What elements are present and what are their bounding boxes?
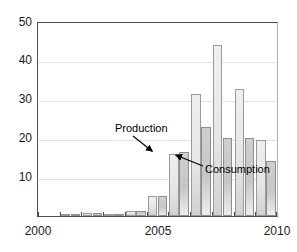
x-tick-2003 [103, 212, 104, 216]
bar-consumption-2003 [114, 214, 124, 216]
x-tick-2002 [81, 212, 82, 216]
x-tick-2005 [147, 212, 148, 216]
bar-consumption-2001 [71, 214, 81, 216]
bar-production-2002 [83, 213, 93, 216]
annotation-label-production: Production [115, 122, 168, 134]
bar-chart: 50 40 30 20 10 2000 2005 2010 Production… [0, 0, 297, 252]
x-axis-tick-label-2005: 2005 [136, 224, 180, 238]
x-tick-2004 [125, 212, 126, 216]
bar-production-2003 [104, 214, 114, 216]
y-axis-tick-label-10: 10 [6, 170, 32, 184]
y-axis-tick-label-20: 20 [6, 131, 32, 145]
x-axis-tick-label-2010: 2010 [255, 224, 297, 238]
annotation-label-consumption: Consumption [205, 163, 270, 175]
y-axis-tick-label-40: 40 [6, 53, 32, 67]
bar-consumption-2008 [223, 138, 233, 216]
bar-consumption-2005 [158, 196, 168, 216]
gridline-40 [38, 62, 277, 63]
bar-production-2010 [256, 140, 266, 216]
plot-area [37, 22, 278, 217]
x-tick-2010 [255, 212, 256, 216]
bar-consumption-2002 [93, 213, 103, 216]
x-tick-2009 [234, 212, 235, 216]
bar-production-2005 [148, 196, 158, 216]
x-tick-2006 [168, 212, 169, 216]
y-axis-tick-label-50: 50 [6, 15, 32, 29]
bar-production-2006 [169, 154, 179, 216]
y-axis-tick-label-30: 30 [6, 92, 32, 106]
x-axis-tick-label-2000: 2000 [16, 224, 60, 238]
bar-consumption-2004 [136, 211, 146, 216]
x-tick-2001 [60, 212, 61, 216]
bar-production-2008 [213, 45, 223, 216]
bar-production-2001 [61, 214, 71, 216]
bar-production-2004 [126, 211, 136, 216]
bar-consumption-2006 [179, 152, 189, 216]
x-tick-end [276, 212, 277, 216]
bar-production-2007 [191, 94, 201, 216]
x-tick-2008 [212, 212, 213, 216]
bar-consumption-2009 [245, 138, 255, 216]
x-tick-2007 [190, 212, 191, 216]
bar-production-2009 [235, 89, 245, 216]
x-tick-2000 [38, 212, 39, 216]
